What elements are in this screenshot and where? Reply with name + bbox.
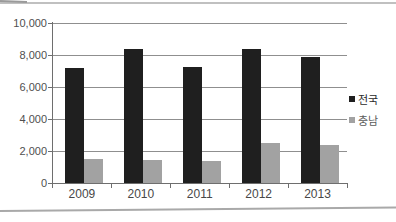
- y-tick-label-6000: 6,000: [6, 81, 47, 94]
- y-tick-label-8000: 8,000: [6, 49, 47, 62]
- x-tick-5: [347, 183, 348, 188]
- legend-swatch-series1: [349, 96, 355, 102]
- legend-label-series1: 전국: [358, 91, 378, 107]
- y-tick-6000: [48, 87, 53, 88]
- x-tick-label-2010: 2010: [116, 187, 166, 201]
- y-axis-line: [52, 22, 53, 184]
- y-tick-10000: [48, 23, 53, 24]
- gridline-8000: [53, 55, 348, 56]
- bar-series2-2011: [202, 161, 221, 183]
- x-tick-label-2013: 2013: [293, 187, 343, 201]
- x-tick-4: [288, 183, 289, 188]
- bar-series1-2013: [301, 57, 320, 183]
- bar-series2-2012: [261, 143, 280, 183]
- bar-series1-2012: [242, 49, 261, 183]
- bar-series1-2011: [183, 67, 202, 183]
- x-tick-1: [111, 183, 112, 188]
- bar-series1-2009: [65, 68, 84, 183]
- document-page: 02,0004,0006,0008,00010,0002009201020112…: [0, 0, 396, 222]
- bar-series1-2010: [124, 49, 143, 183]
- y-tick-label-10000: 10,000: [6, 17, 47, 30]
- y-tick-2000: [48, 151, 53, 152]
- x-tick-label-2009: 2009: [57, 187, 107, 201]
- bar-series2-2013: [320, 145, 339, 183]
- y-tick-4000: [48, 119, 53, 120]
- y-tick-label-2000: 2,000: [6, 145, 47, 158]
- x-tick-label-2012: 2012: [234, 187, 284, 201]
- bar-chart: 02,0004,0006,0008,00010,0002009201020112…: [0, 0, 396, 222]
- x-tick-3: [229, 183, 230, 188]
- y-tick-8000: [48, 55, 53, 56]
- gridline-10000: [53, 23, 348, 24]
- y-tick-label-0: 0: [6, 177, 47, 190]
- bar-series2-2009: [84, 159, 103, 183]
- x-tick-label-2011: 2011: [175, 187, 225, 201]
- x-tick-0: [52, 183, 53, 188]
- legend-label-series2: 충남: [358, 112, 378, 128]
- y-tick-label-4000: 4,000: [6, 113, 47, 126]
- legend-item-2: 충남: [349, 114, 378, 126]
- legend-item-1: 전국: [349, 93, 378, 105]
- x-tick-2: [170, 183, 171, 188]
- legend-swatch-series2: [349, 117, 355, 123]
- bar-series2-2010: [143, 160, 162, 183]
